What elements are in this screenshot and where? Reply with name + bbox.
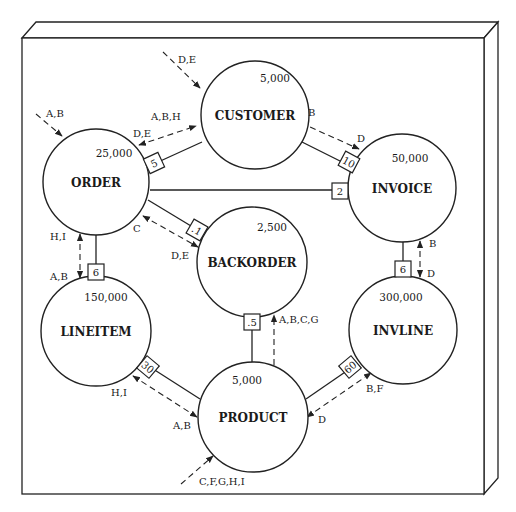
entity-count: 2,500 bbox=[257, 221, 287, 233]
frame-top-bevel bbox=[22, 22, 498, 38]
access-label: D bbox=[318, 414, 326, 425]
access-label: B bbox=[429, 238, 436, 249]
database-access-diagram: CUSTOMER5,000ORDER25,000INVOICE50,000BAC… bbox=[0, 0, 516, 512]
ratio-box-order-lineitem: 6 bbox=[88, 264, 104, 280]
access-label: C bbox=[133, 223, 141, 234]
entity-backorder: BACKORDER2,500 bbox=[197, 207, 307, 317]
frame-right-bevel bbox=[484, 22, 498, 494]
access-label: D,E bbox=[171, 250, 189, 261]
access-label: D,E bbox=[133, 128, 151, 139]
entity-order: ORDER25,000 bbox=[43, 129, 149, 235]
access-label: H,I bbox=[50, 231, 66, 242]
entity-count: 5,000 bbox=[232, 374, 262, 386]
access-label: A,B,H bbox=[150, 111, 181, 122]
ratio-box-order-invoice: 2 bbox=[332, 183, 348, 199]
entity-name: BACKORDER bbox=[207, 256, 297, 270]
entity-name: CUSTOMER bbox=[215, 109, 296, 123]
entity-product: PRODUCT5,000 bbox=[198, 362, 308, 472]
entity-name: INVOICE bbox=[372, 182, 432, 196]
entity-name: INVLINE bbox=[373, 324, 433, 338]
entity-count: 5,000 bbox=[260, 72, 290, 84]
access-label: H,I bbox=[111, 387, 127, 398]
entity-lineitem: LINEITEM150,000 bbox=[41, 276, 151, 386]
access-label: B,F bbox=[366, 383, 384, 394]
ratio-box-backorder-product: .5 bbox=[244, 314, 260, 330]
ratio-value: 2 bbox=[337, 186, 343, 197]
access-label: D bbox=[357, 133, 365, 144]
access-label: B bbox=[308, 107, 315, 118]
ratio-value: 6 bbox=[93, 267, 99, 278]
access-label: D,E bbox=[178, 54, 196, 65]
access-label: A,B,C,G bbox=[278, 314, 318, 325]
entity-name: PRODUCT bbox=[219, 411, 288, 425]
ratio-value: .5 bbox=[247, 317, 257, 328]
access-label: A,B bbox=[172, 420, 191, 431]
access-label: C,F,G,H,I bbox=[199, 476, 245, 487]
entity-count: 50,000 bbox=[392, 152, 429, 164]
entity-count: 300,000 bbox=[379, 291, 422, 303]
access-label: D bbox=[427, 268, 435, 279]
ratio-value: 6 bbox=[400, 264, 406, 275]
access-label: A,B bbox=[45, 108, 64, 119]
entity-count: 150,000 bbox=[84, 291, 127, 303]
entity-name: ORDER bbox=[71, 176, 122, 190]
entity-count: 25,000 bbox=[96, 147, 133, 159]
entity-name: LINEITEM bbox=[60, 325, 131, 339]
access-label: A,B bbox=[49, 271, 68, 282]
entity-invoice: INVOICE50,000 bbox=[348, 134, 456, 242]
entity-customer: CUSTOMER5,000 bbox=[201, 61, 309, 169]
entity-invline: INVLINE300,000 bbox=[349, 276, 457, 384]
ratio-box-invoice-invline: 6 bbox=[395, 261, 411, 277]
